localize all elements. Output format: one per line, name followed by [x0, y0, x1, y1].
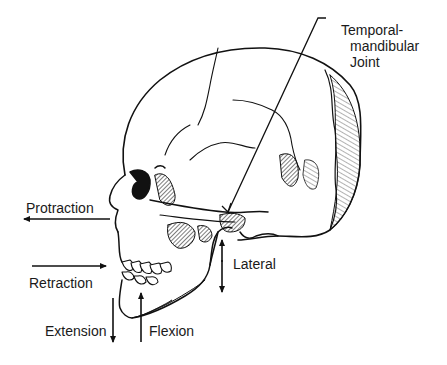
protraction-label: Protraction [26, 200, 94, 216]
teeth [122, 260, 171, 285]
retraction-label: Retraction [29, 275, 93, 291]
flexion-label: Flexion [149, 323, 194, 339]
extension-label: Extension [45, 323, 106, 339]
tmj-label-line3: Joint [350, 54, 380, 70]
skull-diagram: Temporal- mandibular Joint Protraction R… [0, 0, 447, 365]
face [110, 166, 268, 262]
cranium [123, 48, 361, 240]
lateral-label: Lateral [233, 256, 276, 272]
tmj-label-line2: mandibular [350, 38, 419, 54]
tmj-label-line1: Temporal- [341, 22, 403, 38]
